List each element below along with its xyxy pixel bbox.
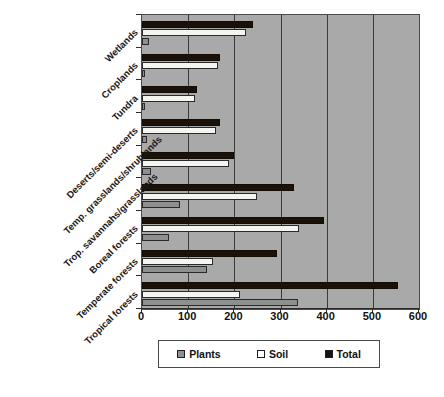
legend-label-soil: Soil bbox=[269, 348, 288, 360]
y-tick bbox=[136, 210, 141, 211]
legend-entry-total[interactable]: Total bbox=[325, 348, 361, 360]
y-tick bbox=[136, 47, 141, 48]
plot-area bbox=[141, 14, 420, 310]
bar-soil-croplands bbox=[142, 62, 218, 69]
bar-total-boreal-forests bbox=[142, 217, 324, 224]
legend-entry-plants[interactable]: Plants bbox=[177, 348, 221, 360]
x-tick-label-600: 600 bbox=[398, 310, 438, 322]
plants-swatch bbox=[177, 350, 185, 358]
gridline-500 bbox=[373, 15, 374, 309]
legend-entry-soil[interactable]: Soil bbox=[257, 348, 288, 360]
bar-total-trop-savannahs-grasslands bbox=[142, 184, 294, 191]
bar-plants-trop-savannahs-grasslands bbox=[142, 201, 180, 208]
y-tick bbox=[136, 243, 141, 244]
bar-soil-tundra bbox=[142, 95, 195, 102]
bar-soil-boreal-forests bbox=[142, 225, 299, 232]
legend-label-plants: Plants bbox=[189, 348, 221, 360]
bar-plants-deserts-semi-deserts bbox=[142, 136, 147, 143]
gridline-400 bbox=[327, 15, 328, 309]
gridline-200 bbox=[234, 15, 235, 309]
bar-soil-temp-grasslands-shrublands bbox=[142, 160, 229, 167]
x-tick-label-200: 200 bbox=[213, 310, 253, 322]
chart-legend: PlantsSoilTotal bbox=[158, 340, 380, 368]
bar-plants-croplands bbox=[142, 70, 145, 77]
x-tick-label-100: 100 bbox=[167, 310, 207, 322]
bar-total-wetlands bbox=[142, 21, 253, 28]
bar-total-temperate-forests bbox=[142, 250, 277, 257]
bar-soil-temperate-forests bbox=[142, 258, 213, 265]
legend-label-total: Total bbox=[337, 348, 361, 360]
x-tick-label-400: 400 bbox=[306, 310, 346, 322]
bar-plants-temperate-forests bbox=[142, 266, 207, 273]
y-tick bbox=[136, 308, 141, 309]
y-tick bbox=[136, 275, 141, 276]
bar-total-tundra bbox=[142, 86, 197, 93]
x-tick-label-500: 500 bbox=[352, 310, 392, 322]
bar-total-temp-grasslands-shrublands bbox=[142, 152, 234, 159]
y-tick bbox=[136, 14, 141, 15]
bar-chart: PlantsSoilTotal Tropical forestsTemperat… bbox=[0, 0, 444, 397]
y-tick bbox=[136, 112, 141, 113]
gridline-300 bbox=[281, 15, 282, 309]
x-axis-line bbox=[141, 308, 419, 309]
y-tick bbox=[136, 79, 141, 80]
bar-total-croplands bbox=[142, 54, 220, 61]
x-tick-label-0: 0 bbox=[121, 310, 161, 322]
x-tick-label-300: 300 bbox=[260, 310, 300, 322]
bar-plants-tundra bbox=[142, 103, 145, 110]
total-swatch bbox=[325, 350, 333, 358]
bar-soil-tropical-forests bbox=[142, 291, 240, 298]
bar-plants-boreal-forests bbox=[142, 234, 169, 241]
y-tick bbox=[136, 145, 141, 146]
y-tick bbox=[136, 177, 141, 178]
bar-soil-wetlands bbox=[142, 29, 246, 36]
bar-plants-wetlands bbox=[142, 38, 149, 45]
bar-plants-tropical-forests bbox=[142, 299, 298, 306]
bar-soil-trop-savannahs-grasslands bbox=[142, 193, 257, 200]
bar-soil-deserts-semi-deserts bbox=[142, 127, 216, 134]
bar-total-tropical-forests bbox=[142, 282, 398, 289]
bar-total-deserts-semi-deserts bbox=[142, 119, 220, 126]
soil-swatch bbox=[257, 350, 265, 358]
